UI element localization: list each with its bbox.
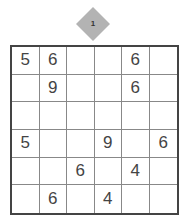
grid-cell[interactable]: 4 — [95, 185, 123, 213]
grid-cell[interactable] — [122, 102, 150, 130]
grid-cell[interactable] — [12, 158, 40, 186]
grid-cell[interactable] — [150, 75, 178, 103]
grid-cell[interactable] — [40, 102, 68, 130]
grid-cell[interactable] — [40, 158, 68, 186]
grid-cell[interactable]: 9 — [40, 75, 68, 103]
grid-cell[interactable] — [150, 185, 178, 213]
grid-cell[interactable] — [95, 75, 123, 103]
grid-cell[interactable] — [150, 102, 178, 130]
puzzle-number: 1 — [81, 12, 105, 36]
grid-cell[interactable]: 4 — [122, 158, 150, 186]
grid-cell[interactable]: 6 — [40, 47, 68, 75]
grid-cell[interactable] — [95, 47, 123, 75]
grid-cell[interactable] — [122, 130, 150, 158]
grid-cell[interactable]: 9 — [95, 130, 123, 158]
grid-cell[interactable]: 6 — [150, 130, 178, 158]
grid-cell[interactable]: 5 — [12, 130, 40, 158]
grid-cell[interactable] — [67, 75, 95, 103]
grid-cell[interactable]: 6 — [122, 47, 150, 75]
grid-cell[interactable] — [67, 102, 95, 130]
grid-cell[interactable]: 5 — [12, 47, 40, 75]
grid-cell[interactable]: 6 — [122, 75, 150, 103]
grid-cell[interactable] — [12, 102, 40, 130]
grid-cell[interactable] — [12, 75, 40, 103]
grid-cell[interactable]: 6 — [40, 185, 68, 213]
grid-cell[interactable]: 6 — [67, 158, 95, 186]
grid-cell[interactable] — [67, 47, 95, 75]
grid-cell[interactable] — [12, 185, 40, 213]
grid-cell[interactable] — [40, 130, 68, 158]
grid-cell[interactable] — [67, 130, 95, 158]
grid-cell[interactable] — [122, 185, 150, 213]
grid-cell[interactable] — [67, 185, 95, 213]
grid-cell[interactable] — [95, 158, 123, 186]
grid-cell[interactable] — [95, 102, 123, 130]
grid-cell[interactable] — [150, 158, 178, 186]
puzzle-grid: 5 6 6 9 6 5 9 6 6 4 6 4 — [10, 45, 179, 215]
grid-cell[interactable] — [150, 47, 178, 75]
